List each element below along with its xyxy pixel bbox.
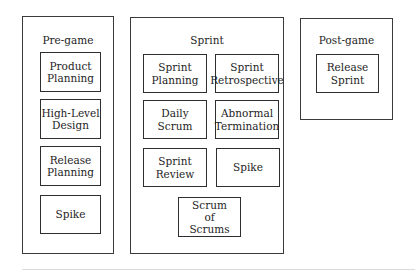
activity-sprint-planning: Sprint Planning [143,54,207,93]
bottom-divider [22,269,415,270]
phase-title-pre-game: Pre-game [23,34,113,46]
activity-release-sprint: Release Sprint [316,54,379,93]
phase-title-post-game: Post-game [301,34,392,46]
activity-sprint-review: Sprint Review [143,148,207,187]
activity-sprint-retrospective: Sprint Retrospective [215,54,279,93]
activity-abnormal-termination: Abnormal Termination [215,100,279,139]
activity-high-level-design: High-Level Design [40,99,101,139]
activity-pregame-spike: Spike [40,195,101,234]
activity-product-planning: Product Planning [40,52,101,92]
activity-daily-scrum: Daily Scrum [143,100,207,139]
activity-sprint-spike: Spike [216,148,280,187]
activity-release-planning: Release Planning [40,146,101,186]
phase-title-sprint: Sprint [131,34,283,46]
activity-scrum-of-scrums: Scrum of Scrums [178,197,241,237]
